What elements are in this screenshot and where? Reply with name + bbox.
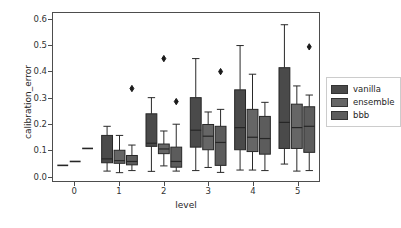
x-tick-label: 4: [233, 186, 273, 196]
outlier-marker: [130, 85, 134, 91]
box-plot-box: [114, 135, 125, 172]
legend-label: vanilla: [353, 85, 381, 94]
box-plot-box: [259, 102, 270, 170]
legend-item[interactable]: vanilla: [331, 83, 395, 95]
box-plot-box: [203, 112, 214, 167]
box-plot-box: [247, 74, 258, 170]
y-tick-label: 0.0: [7, 172, 47, 182]
legend-label: bbb: [353, 111, 369, 120]
x-tick-label: 0: [54, 186, 94, 196]
x-tick-mark: [208, 182, 209, 186]
outlier-marker: [307, 44, 311, 50]
outlier-marker: [219, 68, 223, 74]
box-plot-figure: 0.00.10.20.30.40.50.6 012345 calibration…: [0, 0, 401, 228]
x-tick-mark: [298, 182, 299, 186]
box-plot-canvas: [53, 13, 319, 181]
x-tick-mark: [74, 182, 75, 186]
outlier-marker: [174, 98, 178, 104]
x-tick-label: 3: [188, 186, 228, 196]
y-axis-label: calibration_error: [23, 32, 33, 172]
x-axis-label: level: [52, 200, 320, 210]
x-tick-mark: [164, 182, 165, 186]
box-plot-box: [190, 59, 201, 171]
box-plot-box: [102, 126, 113, 171]
y-tick-label: 0.6: [7, 14, 47, 24]
box-plot-box: [235, 46, 246, 171]
legend-item[interactable]: ensemble: [331, 96, 395, 108]
box-plot-box: [146, 98, 157, 172]
x-tick-label: 1: [99, 186, 139, 196]
box-plot-box: [215, 68, 226, 172]
x-tick-mark: [253, 182, 254, 186]
legend-swatch-icon: [331, 98, 348, 107]
x-tick-label: 2: [144, 186, 184, 196]
legend-label: ensemble: [353, 98, 395, 107]
box-plot-box: [126, 85, 137, 170]
box-plot-box: [304, 44, 315, 171]
x-tick-mark: [119, 182, 120, 186]
legend-item[interactable]: bbb: [331, 109, 395, 121]
box-plot-box: [158, 55, 169, 165]
x-tick-label: 5: [278, 186, 318, 196]
box-plot-box: [279, 25, 290, 164]
box-plot-box: [291, 86, 302, 171]
legend-swatch-icon: [331, 85, 348, 94]
plot-area: [52, 12, 320, 182]
legend-swatch-icon: [331, 111, 348, 120]
outlier-marker: [162, 55, 166, 61]
legend: vanillaensemblebbb: [326, 77, 401, 127]
box-plot-box: [171, 98, 182, 171]
